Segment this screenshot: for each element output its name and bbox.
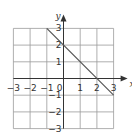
axes — [13, 14, 127, 128]
y-tick-label: −3 — [48, 124, 61, 134]
x-axis-label: x — [130, 79, 132, 89]
y-tick-label: 1 — [56, 57, 62, 67]
y-tick-label: 3 — [56, 23, 62, 33]
x-tick-label: 1 — [77, 83, 83, 93]
coordinate-plane: −3−2−10123321−1−2−3xy — [0, 0, 132, 139]
y-tick-label: −1 — [48, 90, 61, 100]
y-axis-label: y — [55, 11, 62, 21]
x-tick-label: −2 — [23, 83, 36, 93]
x-tick-label: −3 — [7, 83, 20, 93]
y-tick-label: 2 — [56, 40, 62, 50]
x-tick-label: 3 — [111, 83, 117, 93]
x-tick-label: 2 — [94, 83, 100, 93]
x-axis-arrow-icon — [121, 76, 128, 82]
y-axis-arrow-icon — [61, 14, 67, 21]
y-tick-label: −2 — [48, 107, 61, 117]
